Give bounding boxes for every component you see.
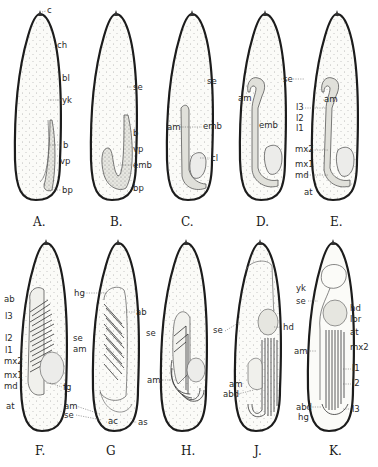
label-hg: hg [298, 412, 309, 422]
panel-b: se b vp emb bp B. [91, 10, 152, 229]
label-l1: l1 [352, 363, 360, 373]
label-bp: bp [62, 185, 73, 195]
label-se: se [213, 325, 223, 335]
label-ch: ch [57, 40, 67, 50]
label-bp: bp [133, 183, 144, 193]
label-lbr: lbr [350, 314, 362, 324]
caption-j: J. [252, 444, 262, 458]
label-cl: cl [211, 153, 218, 163]
label-l2: l2 [296, 113, 304, 123]
label-abd: abd [296, 402, 312, 412]
label-l3: l3 [5, 311, 13, 321]
caption-c: C. [181, 215, 194, 229]
label-l2: l2 [352, 378, 360, 388]
label-md: md [295, 170, 309, 180]
label-vp: vp [60, 156, 70, 166]
label-se: se [296, 296, 306, 306]
panel-c: se am emb cl C. [167, 10, 222, 229]
label-l1: l1 [296, 123, 304, 133]
panel-g: hg ab se am am se ac as G [64, 239, 148, 458]
label-at: at [6, 401, 15, 411]
label-se: se [73, 333, 83, 343]
label-mx2: mx2 [350, 342, 369, 352]
label-se-lower: se [64, 410, 74, 420]
panel-j: se hd am abd J. [213, 239, 294, 458]
label-vp: vp [133, 144, 143, 154]
panel-d: se am emb D. [238, 10, 305, 229]
caption-a: A. [32, 215, 45, 229]
panel-k: yk se hd lbr at mx2 am l1 l2 l3 abd hg K… [294, 239, 369, 458]
label-hd: hd [283, 322, 294, 332]
label-c: c [47, 5, 52, 15]
caption-g: G [106, 444, 116, 458]
caption-f: F. [35, 444, 45, 458]
label-l1: l1 [5, 345, 13, 355]
label-l3: l3 [352, 404, 360, 414]
label-abd: abd [223, 389, 239, 399]
label-bl: bl [62, 73, 70, 83]
label-l2: l2 [5, 333, 13, 343]
label-mx1: mx1 [4, 370, 23, 380]
label-l3: l3 [296, 102, 304, 112]
panel-h: se am H. [146, 239, 207, 458]
label-at: at [350, 327, 359, 337]
label-yk: yk [62, 95, 72, 105]
label-as: as [138, 417, 148, 427]
panel-f: ab l3 l2 l1 mx2 mx1 md at fg F. [4, 239, 71, 458]
label-ac: ac [108, 416, 118, 426]
label-hg: hg [74, 288, 85, 298]
caption-b: B. [110, 215, 123, 229]
label-am: am [147, 375, 161, 385]
caption-h: H. [181, 444, 195, 458]
label-am: am [229, 379, 243, 389]
caption-k: K. [329, 444, 342, 458]
caption-e: E. [330, 215, 343, 229]
label-emb: emb [133, 160, 152, 170]
panel-e: am l3 l2 l1 mx2 mx1 md at E. [295, 10, 358, 229]
label-ab: ab [4, 294, 15, 304]
label-md: md [4, 381, 18, 391]
label-b: b [63, 140, 68, 150]
label-am: am [238, 93, 252, 103]
label-yk: yk [296, 283, 306, 293]
label-am: am [167, 122, 181, 132]
label-se: se [283, 74, 293, 84]
label-am: am [324, 94, 338, 104]
embryo-diagram: c ch bl yk b vp bp A. se b vp emb bp B. … [0, 0, 378, 467]
label-hd: hd [350, 303, 361, 313]
panel-a: c ch bl yk b vp bp A. [15, 5, 73, 229]
label-at: at [304, 187, 313, 197]
caption-d: D. [256, 215, 269, 229]
label-se: se [133, 82, 143, 92]
label-emb: emb [259, 120, 278, 130]
label-fg: fg [63, 382, 71, 392]
label-mx2: mx2 [295, 144, 314, 154]
label-se: se [146, 328, 156, 338]
label-mx1: mx1 [295, 159, 314, 169]
label-mx2: mx2 [4, 356, 23, 366]
label-am: am [73, 344, 87, 354]
label-b: b [133, 128, 138, 138]
label-se: se [207, 76, 217, 86]
label-ab: ab [136, 307, 147, 317]
label-emb: emb [203, 121, 222, 131]
